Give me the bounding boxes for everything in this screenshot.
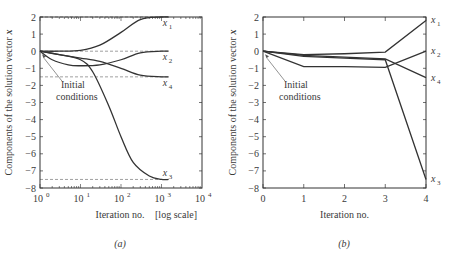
annotation-text-line2: conditions	[279, 91, 321, 102]
x-tick-exponent: 0	[46, 191, 50, 199]
y-tick-label: −1	[248, 63, 259, 74]
y-tick-label: −8	[248, 183, 259, 194]
y-tick-label: 1	[254, 29, 259, 40]
panel-label: (a)	[114, 238, 126, 250]
series-label-sub-x3: 3	[169, 173, 173, 181]
x-axis-scale-note: [log scale]	[155, 209, 197, 220]
x-tick-exponent: 3	[168, 191, 172, 199]
series-label-sub-x2: 2	[169, 57, 173, 65]
y-tick-label: −6	[248, 148, 259, 159]
x-axis-label: Iteration no.	[320, 209, 369, 220]
y-tick-label: −5	[25, 131, 36, 142]
x-axis-label: Iteration no.	[96, 209, 145, 220]
plot-frame	[40, 17, 202, 188]
y-axis-label: Components of the solution vector x	[3, 30, 14, 176]
y-tick-label: −4	[248, 114, 259, 125]
annotation-arrow-line	[267, 58, 285, 81]
y-tick-label: −1	[25, 63, 36, 74]
series-label-x1: x	[162, 17, 168, 28]
y-tick-label: −8	[25, 183, 36, 194]
y-tick-label: −5	[248, 131, 259, 142]
y-tick-label: −6	[25, 148, 36, 159]
series-label-x2: x	[162, 51, 168, 62]
y-tick-label: 2	[31, 12, 36, 23]
figure: 210−1−2−3−4−5−6−7−8100101102103104x1x2x4…	[0, 0, 453, 257]
annotation-text-line1: Initial	[284, 79, 308, 90]
x-tick-label: 0	[261, 193, 266, 204]
series-line-x1	[263, 20, 426, 54]
y-tick-label: −7	[25, 165, 36, 176]
series-line-x2	[40, 51, 169, 66]
panel-b: 210−1−2−3−4−5−6−7−801234x1x2x4x3Initialc…	[227, 12, 441, 251]
series-label-sub-x3: 3	[437, 179, 441, 187]
series-line-x3	[40, 51, 169, 180]
annotation-arrow-head-icon	[265, 54, 269, 58]
annotation-text-line1: Initial	[61, 79, 85, 90]
series-label-sub-x1: 1	[437, 20, 441, 28]
x-tick-label: 2	[342, 193, 347, 204]
series-line-x1	[40, 17, 169, 51]
panel-a: 210−1−2−3−4−5−6−7−8100101102103104x1x2x4…	[3, 12, 212, 251]
x-tick-label: 10	[155, 193, 165, 204]
y-tick-label: 1	[31, 29, 36, 40]
x-tick-exponent: 4	[208, 191, 212, 199]
series-label-x2: x	[430, 45, 436, 56]
y-tick-label: −3	[248, 97, 259, 108]
x-tick-exponent: 2	[127, 191, 131, 199]
y-tick-label: 0	[254, 46, 259, 57]
x-tick-label: 10	[114, 193, 124, 204]
x-tick-label: 10	[74, 193, 84, 204]
x-tick-label: 10	[33, 193, 43, 204]
y-tick-label: −4	[25, 114, 36, 125]
x-tick-label: 10	[195, 193, 205, 204]
annotation-arrow-line	[44, 58, 62, 81]
plot-frame	[263, 17, 426, 188]
x-tick-label: 3	[383, 193, 388, 204]
series-label-x3: x	[162, 167, 168, 178]
series-label-sub-x4: 4	[437, 78, 441, 86]
series-label-x4: x	[162, 77, 168, 88]
y-axis-label-vector: x	[227, 30, 238, 36]
series-label-sub-x2: 2	[437, 51, 441, 59]
series-line-x3	[263, 51, 426, 179]
panel-label: (b)	[338, 238, 350, 250]
series-label-x1: x	[430, 14, 436, 25]
series-label-sub-x4: 4	[169, 83, 173, 91]
y-axis-label-vector: x	[3, 30, 14, 36]
series-label-x4: x	[430, 72, 436, 83]
x-tick-label: 4	[424, 193, 429, 204]
series-label-x3: x	[430, 173, 436, 184]
x-tick-label: 1	[301, 193, 306, 204]
y-axis-label: Components of the solution vector x	[227, 30, 238, 176]
series-line-x4	[263, 51, 426, 78]
annotation-text-line2: conditions	[56, 91, 98, 102]
y-tick-label: −7	[248, 165, 259, 176]
x-tick-exponent: 1	[87, 191, 91, 199]
series-label-sub-x1: 1	[169, 23, 173, 31]
y-tick-label: 2	[254, 12, 259, 23]
y-tick-label: −2	[25, 80, 36, 91]
y-tick-label: −3	[25, 97, 36, 108]
y-tick-label: 0	[31, 46, 36, 57]
y-tick-label: −2	[248, 80, 259, 91]
